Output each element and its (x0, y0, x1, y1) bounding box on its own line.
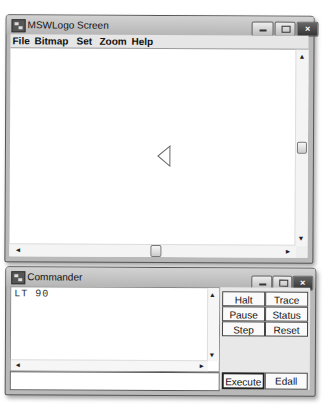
halt-button[interactable]: Halt (222, 291, 265, 306)
vertical-scrollbar[interactable]: ▲ ▼ (294, 50, 308, 246)
edall-button[interactable]: Edall (265, 373, 308, 390)
mswlogo-screen-window: MSWLogo Screen × File Bitmap Set Zoom He… (4, 14, 314, 264)
app-icon (11, 271, 25, 284)
menu-help[interactable]: Help (131, 36, 153, 47)
menu-zoom[interactable]: Zoom (99, 36, 126, 47)
history-vertical-scrollbar[interactable]: ▲ ▼ (207, 288, 219, 361)
horizontal-scrollbar[interactable]: ◄ ► (9, 243, 295, 257)
history-line[interactable]: LT 90 (14, 288, 49, 299)
commander-window: Commander × LT 90 ▲ ▼ ◄ ► Halt Trace Pau… (5, 266, 317, 397)
close-icon: × (305, 24, 310, 34)
scroll-left-icon[interactable]: ◄ (14, 246, 21, 254)
status-button[interactable]: Status (265, 307, 308, 322)
pause-button[interactable]: Pause (222, 306, 265, 321)
title-bar[interactable]: MSWLogo Screen × (7, 15, 314, 36)
scroll-up-icon[interactable]: ▲ (298, 53, 305, 61)
horizontal-scroll-thumb[interactable] (150, 245, 161, 257)
scroll-down-icon[interactable]: ▼ (297, 235, 304, 243)
turtle-icon (156, 145, 172, 167)
close-icon: × (300, 278, 305, 288)
scroll-down-icon[interactable]: ▼ (210, 351, 214, 359)
menu-bitmap[interactable]: Bitmap (34, 35, 68, 46)
maximize-button[interactable] (275, 22, 296, 37)
vertical-scroll-thumb[interactable] (297, 142, 307, 154)
menu-file[interactable]: File (12, 35, 29, 46)
button-panel: Halt Trace Pause Status Step Reset Execu… (220, 287, 311, 389)
close-button[interactable]: × (297, 22, 319, 37)
step-button[interactable]: Step (222, 321, 265, 336)
scroll-right-icon[interactable]: ► (284, 248, 291, 256)
window-title: MSWLogo Screen (28, 19, 109, 30)
command-input[interactable] (10, 371, 220, 391)
menu-set[interactable]: Set (76, 36, 92, 47)
execute-button[interactable]: Execute (222, 372, 265, 389)
trace-button[interactable]: Trace (265, 292, 308, 307)
resize-grip[interactable] (295, 246, 307, 258)
minimize-button[interactable] (252, 21, 274, 36)
history-horizontal-scrollbar[interactable]: ◄ ► (11, 359, 208, 371)
command-history[interactable]: LT 90 ▲ ▼ ◄ ► (10, 286, 220, 372)
scroll-left-icon[interactable]: ◄ (16, 361, 20, 369)
commander-title-bar[interactable]: Commander × (6, 267, 315, 288)
reset-button[interactable]: Reset (265, 322, 308, 337)
drawing-canvas[interactable]: ▲ ▼ ◄ ► (9, 47, 308, 258)
scroll-right-icon[interactable]: ► (200, 362, 204, 370)
scroll-up-icon[interactable]: ▲ (210, 291, 214, 299)
commander-title: Commander (27, 271, 82, 282)
app-icon (12, 19, 26, 32)
